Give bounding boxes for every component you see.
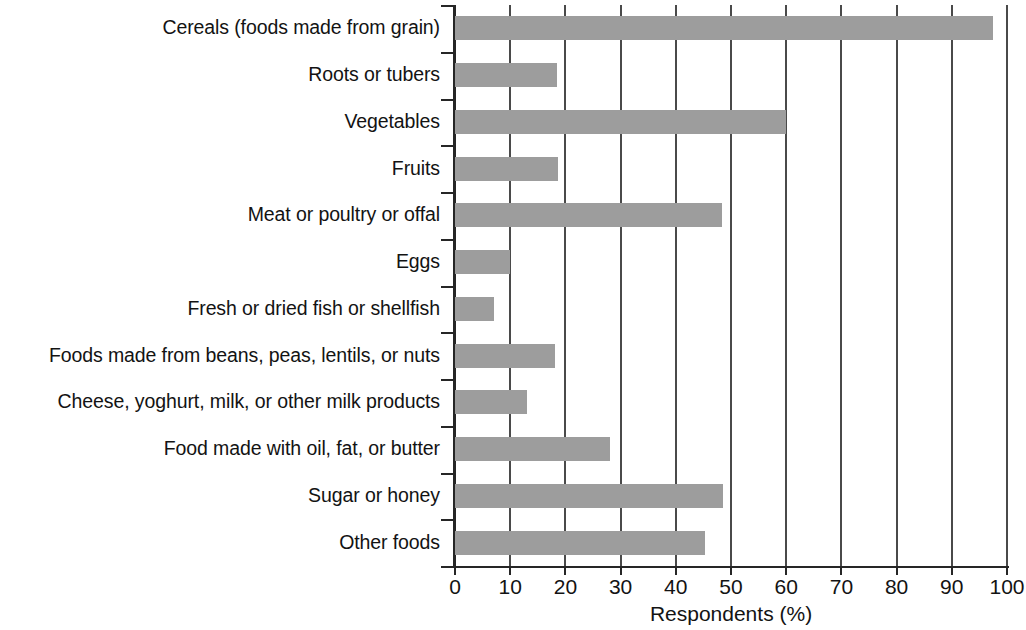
y-axis-tick <box>441 332 454 334</box>
bar <box>455 437 610 461</box>
bar <box>455 63 557 87</box>
x-axis-tick-label: 50 <box>719 576 742 597</box>
bar <box>455 297 494 321</box>
category-label: Cereals (foods made from grain) <box>162 18 440 38</box>
category-label: Meat or poultry or offal <box>248 205 440 225</box>
x-axis-line <box>447 566 1009 568</box>
plot-area <box>455 5 1007 566</box>
x-axis-tick <box>840 566 842 575</box>
gridline-60 <box>785 5 787 566</box>
y-axis-tick <box>441 473 454 475</box>
bar <box>455 344 555 368</box>
gridline-80 <box>896 5 898 566</box>
y-axis-tick <box>441 426 454 428</box>
category-label: Sugar or honey <box>308 486 440 506</box>
x-axis-tick <box>785 566 787 575</box>
category-label: Fresh or dried fish or shellfish <box>187 299 440 319</box>
x-axis-tick-label: 20 <box>554 576 577 597</box>
x-axis-tick <box>896 566 898 575</box>
bar <box>455 203 722 227</box>
y-axis-tick <box>441 145 454 147</box>
y-axis-tick <box>441 99 454 101</box>
gridline-90 <box>951 5 953 566</box>
gridline-100 <box>1006 5 1008 566</box>
x-axis-tick-label: 30 <box>609 576 632 597</box>
category-label: Fruits <box>392 159 440 179</box>
gridline-70 <box>840 5 842 566</box>
category-label: Roots or tubers <box>308 65 440 85</box>
x-axis-tick-label: 70 <box>830 576 853 597</box>
x-axis-tick-label: 0 <box>449 576 461 597</box>
category-label: Vegetables <box>344 112 440 132</box>
x-axis-tick-label: 90 <box>940 576 963 597</box>
gridline-50 <box>730 5 732 566</box>
y-axis-tick <box>441 519 454 521</box>
y-axis-tick <box>441 379 454 381</box>
x-axis-tick <box>675 566 677 575</box>
x-axis-tick <box>1006 566 1008 575</box>
x-axis-tick-label: 10 <box>499 576 522 597</box>
x-axis-tick <box>564 566 566 575</box>
bar <box>455 250 510 274</box>
category-label: Foods made from beans, peas, lentils, or… <box>49 346 440 366</box>
y-axis-tick <box>441 239 454 241</box>
gridline-20 <box>564 5 566 566</box>
bar <box>455 390 527 414</box>
category-label: Cheese, yoghurt, milk, or other milk pro… <box>58 392 440 412</box>
gridline-0 <box>454 5 456 566</box>
gridline-10 <box>509 5 511 566</box>
x-axis-tick <box>951 566 953 575</box>
y-axis-tick <box>441 286 454 288</box>
bar <box>455 531 705 555</box>
category-label: Food made with oil, fat, or butter <box>164 439 440 459</box>
category-axis: Cereals (foods made from grain)Roots or … <box>0 5 448 566</box>
horizontal-bar-chart: Cereals (foods made from grain)Roots or … <box>0 0 1026 630</box>
bar <box>455 110 786 134</box>
x-axis-tick <box>730 566 732 575</box>
category-label: Other foods <box>339 533 440 553</box>
x-axis-tick <box>620 566 622 575</box>
x-axis-tick <box>509 566 511 575</box>
x-axis-tick-label: 100 <box>989 576 1024 597</box>
x-axis-tick-label: 80 <box>885 576 908 597</box>
gridline-40 <box>675 5 677 566</box>
x-axis-title: Respondents (%) <box>455 603 1007 624</box>
y-axis-tick <box>441 566 454 568</box>
gridline-30 <box>620 5 622 566</box>
x-axis-tick <box>454 566 456 575</box>
x-axis-tick-label: 40 <box>664 576 687 597</box>
x-axis-tick-label: 60 <box>775 576 798 597</box>
y-axis-tick <box>441 5 454 7</box>
y-axis-tick <box>441 52 454 54</box>
bar <box>455 16 993 40</box>
y-axis-tick <box>441 192 454 194</box>
bar <box>455 157 558 181</box>
bar <box>455 484 723 508</box>
category-label: Eggs <box>396 252 440 272</box>
